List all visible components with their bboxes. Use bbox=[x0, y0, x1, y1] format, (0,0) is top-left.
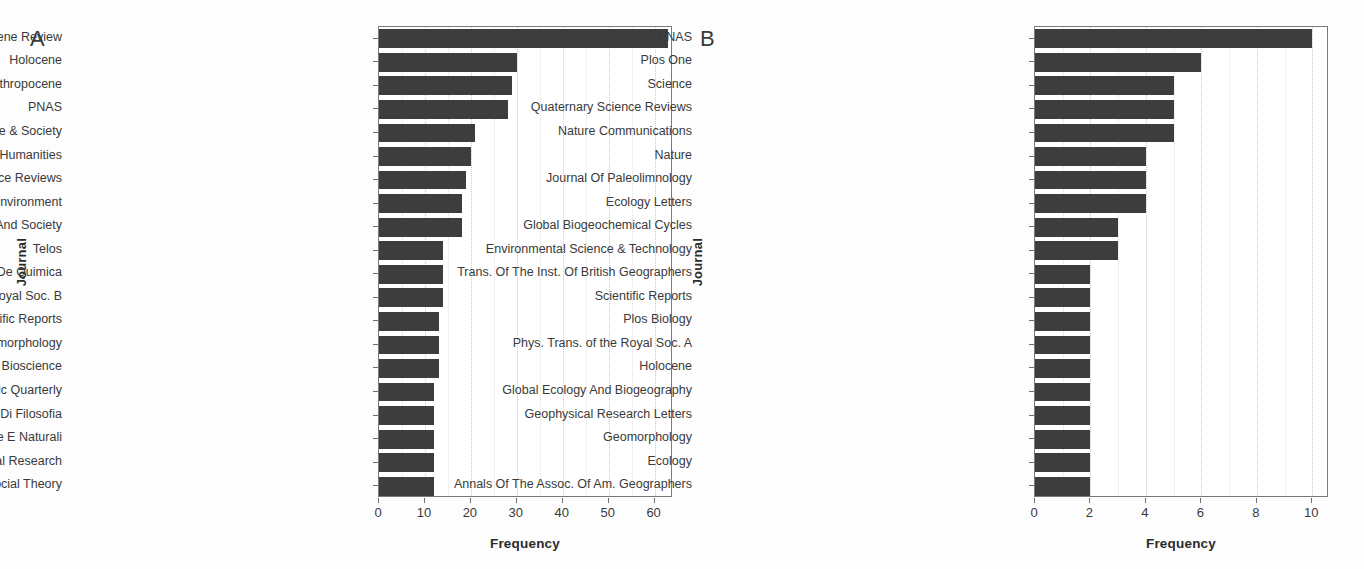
bar bbox=[1035, 171, 1146, 190]
y-tick-mark bbox=[1029, 367, 1034, 368]
bar bbox=[379, 76, 512, 95]
gridline bbox=[609, 27, 610, 496]
bar bbox=[1035, 147, 1146, 166]
category-label: Quaternary Science Reviews bbox=[0, 172, 62, 185]
category-label: Geographical Research bbox=[0, 455, 62, 468]
figure-container: A Journal Anthropocene ReviewHoloceneAnt… bbox=[0, 0, 1364, 569]
gridline bbox=[1201, 27, 1202, 496]
category-label: Phys. Trans. of the Royal Soc. B bbox=[0, 290, 62, 303]
bar bbox=[379, 147, 471, 166]
y-tick-mark bbox=[373, 38, 378, 39]
x-tick-label: 2 bbox=[1086, 506, 1093, 519]
y-tick-mark bbox=[373, 344, 378, 345]
y-tick-mark bbox=[373, 61, 378, 62]
bar bbox=[379, 312, 439, 331]
y-tick-mark bbox=[1029, 485, 1034, 486]
y-tick-mark bbox=[1029, 61, 1034, 62]
x-tick-mark bbox=[608, 498, 609, 503]
y-tick-mark bbox=[1029, 108, 1034, 109]
bar bbox=[1035, 194, 1146, 213]
category-label: Geomorphology bbox=[603, 431, 692, 444]
y-tick-mark bbox=[1029, 273, 1034, 274]
plot-area-b bbox=[1034, 26, 1328, 497]
bar bbox=[379, 453, 434, 472]
bar bbox=[379, 241, 443, 260]
bar bbox=[379, 406, 434, 425]
x-tick-label: 60 bbox=[646, 506, 660, 519]
y-tick-mark bbox=[373, 85, 378, 86]
x-tick-label: 10 bbox=[417, 506, 431, 519]
bar bbox=[1035, 100, 1174, 119]
bar bbox=[1035, 453, 1090, 472]
y-tick-mark bbox=[1029, 179, 1034, 180]
y-tick-mark bbox=[1029, 415, 1034, 416]
bar bbox=[379, 383, 434, 402]
bar bbox=[1035, 29, 1312, 48]
category-label: Geophysical Research Letters bbox=[525, 408, 692, 421]
bar bbox=[1035, 336, 1090, 355]
category-label: Journal Of Paleolimnology bbox=[546, 172, 692, 185]
x-tick-label: 0 bbox=[1030, 506, 1037, 519]
bar bbox=[1035, 359, 1090, 378]
category-label: Environmental Humanities bbox=[0, 149, 62, 162]
category-label: Phys. Trans. of the Royal Soc. A bbox=[513, 337, 692, 350]
x-tick-mark bbox=[1034, 498, 1035, 503]
bar bbox=[1035, 265, 1090, 284]
x-tick-mark bbox=[562, 498, 563, 503]
gridline bbox=[425, 27, 426, 496]
y-tick-mark bbox=[373, 273, 378, 274]
category-label: Global Ecology And Biogeography bbox=[502, 384, 692, 397]
y-tick-mark bbox=[373, 108, 378, 109]
plot-area-a bbox=[378, 26, 672, 497]
x-tick-mark bbox=[654, 498, 655, 503]
y-tick-mark bbox=[373, 415, 378, 416]
x-tick-mark bbox=[470, 498, 471, 503]
y-tick-mark bbox=[373, 391, 378, 392]
y-axis-category-labels-a: Anthropocene ReviewHoloceneAnthropoceneP… bbox=[0, 0, 372, 569]
gridline bbox=[1312, 27, 1313, 496]
bar bbox=[379, 171, 466, 190]
category-label: Science bbox=[648, 78, 692, 91]
category-label: Plos One bbox=[641, 54, 692, 67]
category-label: PNAS bbox=[658, 31, 692, 44]
bar bbox=[1035, 241, 1118, 260]
bar bbox=[379, 194, 462, 213]
gridline-minor bbox=[1118, 27, 1119, 496]
gridline bbox=[471, 27, 472, 496]
category-label: Annals Of The Assoc. Of Am. Geographers bbox=[454, 478, 692, 491]
y-tick-mark bbox=[373, 250, 378, 251]
bar bbox=[379, 477, 434, 496]
x-tick-label: 30 bbox=[509, 506, 523, 519]
category-label: Plos Biology bbox=[623, 313, 692, 326]
gridline-minor bbox=[586, 27, 587, 496]
x-axis-title-b: Frequency bbox=[1034, 536, 1328, 551]
y-tick-mark bbox=[1029, 462, 1034, 463]
y-tick-mark bbox=[1029, 344, 1034, 345]
x-tick-mark bbox=[1089, 498, 1090, 503]
x-tick-mark bbox=[1200, 498, 1201, 503]
x-tick-label: 50 bbox=[600, 506, 614, 519]
bar bbox=[379, 430, 434, 449]
category-label: Bioscience bbox=[2, 360, 62, 373]
bar bbox=[379, 124, 475, 143]
category-label: Ecology bbox=[648, 455, 692, 468]
y-tick-mark bbox=[373, 226, 378, 227]
bar bbox=[1035, 383, 1090, 402]
x-tick-label: 20 bbox=[463, 506, 477, 519]
category-label: Science Of The Total Environment bbox=[0, 196, 62, 209]
x-tick-mark bbox=[516, 498, 517, 503]
category-label: Nature bbox=[654, 149, 692, 162]
category-label: Revista Virtual De Quimica bbox=[0, 266, 62, 279]
x-tick-mark bbox=[1311, 498, 1312, 503]
category-label: Anthropocene Review bbox=[0, 31, 62, 44]
y-tick-mark bbox=[373, 132, 378, 133]
y-tick-mark bbox=[1029, 203, 1034, 204]
bar bbox=[1035, 430, 1090, 449]
bar bbox=[379, 288, 443, 307]
gridline-minor bbox=[402, 27, 403, 496]
x-tick-label: 40 bbox=[555, 506, 569, 519]
category-label: Ecology And Society bbox=[0, 219, 62, 232]
bar bbox=[1035, 288, 1090, 307]
category-label: Geomorphology bbox=[0, 337, 62, 350]
category-label: Telos bbox=[33, 243, 62, 256]
